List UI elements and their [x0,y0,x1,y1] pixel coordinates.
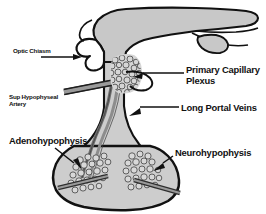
pituitary-diagram: Optic Chiasm Sup Hypophyseal Artery Prim… [0,0,266,214]
hypothalamus-tissue [93,8,258,62]
label-neurohypophysis: Neurohypophysis [175,148,251,159]
label-long-portal-veins: Long Portal Veins [181,103,257,114]
label-adenohypophysis: Adenohypophysis [9,136,87,147]
mammillary-body [192,28,258,53]
label-primary-capillary-plexus: Primary Capillary Plexus [186,65,260,87]
label-sup-hypophyseal-artery: Sup Hypophyseal Artery [9,93,58,107]
label-optic-chiasm: Optic Chiasm [13,47,50,54]
primary-capillary-plexus [108,54,152,95]
